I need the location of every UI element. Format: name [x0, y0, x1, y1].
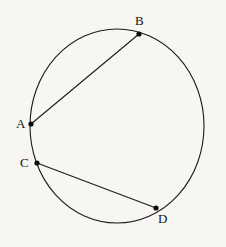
- vertex-dot-b: [136, 31, 141, 36]
- chord-c-d: [37, 163, 156, 208]
- figure-canvas: [0, 0, 226, 247]
- vertex-label-b: B: [135, 14, 144, 27]
- vertex-label-c: C: [20, 156, 29, 169]
- vertex-dot-d: [153, 205, 158, 210]
- chord-a-b: [31, 34, 139, 124]
- vertex-dot-c: [34, 160, 39, 165]
- vertex-label-a: A: [16, 117, 25, 130]
- circle-outline: [30, 29, 204, 223]
- vertex-label-d: D: [158, 212, 167, 225]
- vertex-dot-a: [28, 121, 33, 126]
- geometry-figure: A B C D: [0, 0, 226, 247]
